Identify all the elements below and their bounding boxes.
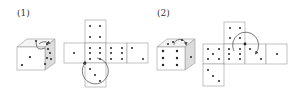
cube-1 [17, 39, 55, 70]
net-2 [203, 22, 287, 86]
net-1 [64, 20, 148, 87]
cube-2 [157, 39, 195, 70]
dice-diagram [0, 0, 300, 95]
